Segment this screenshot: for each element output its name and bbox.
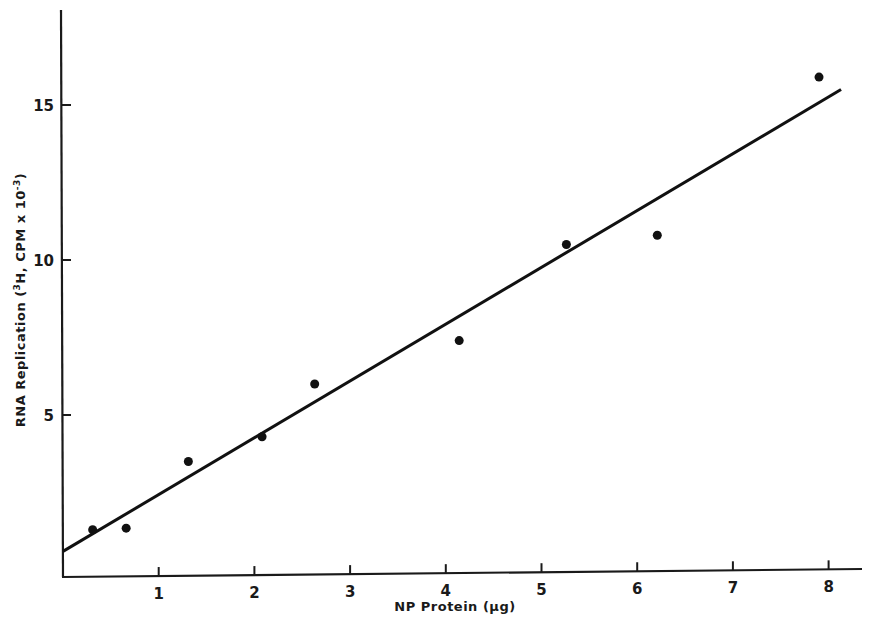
data-point (815, 73, 824, 82)
x-tick-label: 1 (153, 585, 163, 603)
x-tick-label: 5 (536, 581, 546, 599)
data-point (653, 231, 662, 240)
scatter-chart: 12345678 51015 NP Protein (μg) RNA Repli… (0, 0, 874, 629)
data-point (258, 432, 267, 441)
y-axis-title-end: ) (13, 173, 28, 179)
x-tick-label: 6 (632, 580, 642, 598)
x-tick-label: 7 (728, 579, 738, 597)
x-tick-label: 3 (345, 583, 355, 601)
y-axis-title-sup2: -3 (12, 179, 22, 190)
x-axis-line (62, 569, 862, 577)
y-ticks: 51015 (33, 97, 71, 425)
data-point (562, 240, 571, 249)
axes (61, 10, 862, 577)
fit-line (63, 90, 841, 552)
y-tick-label: 5 (44, 407, 54, 425)
data-point (88, 525, 97, 534)
y-axis-title: RNA Replication (3H, CPM x 10-3) (12, 173, 28, 427)
x-ticks: 12345678 (153, 560, 833, 603)
y-axis-title-main: RNA Replication ( (13, 290, 28, 427)
data-point (455, 336, 464, 345)
y-tick-label: 10 (33, 252, 54, 270)
x-tick-label: 2 (249, 584, 259, 602)
data-point (122, 524, 131, 533)
y-axis-title-mid: H, CPM x 10 (13, 190, 28, 283)
x-tick-label: 4 (441, 582, 451, 600)
x-axis-title: NP Protein (μg) (394, 599, 515, 614)
y-axis-line (61, 10, 63, 577)
y-tick-label: 15 (33, 97, 54, 115)
x-tick-label: 8 (823, 578, 833, 596)
data-points (88, 73, 823, 535)
data-point (184, 457, 193, 466)
data-point (310, 380, 319, 389)
y-axis-title-sup1: 3 (12, 284, 22, 291)
fit-line-group (63, 90, 841, 552)
